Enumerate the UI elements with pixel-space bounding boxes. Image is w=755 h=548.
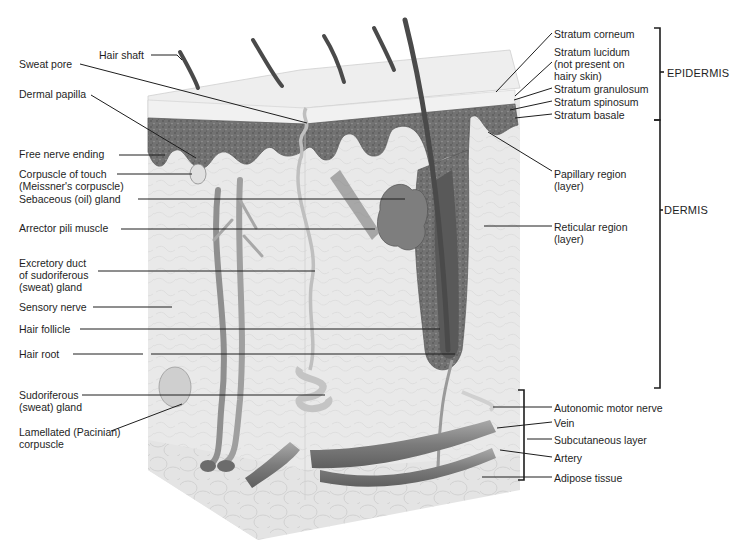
label-sudoriferous-gland: Sudoriferous(sweat) gland (19, 389, 82, 413)
label-lamellated-corpuscle: Lamellated (Pacinian)corpuscle (19, 426, 121, 450)
label-subcutaneous-layer: Subcutaneous layer (554, 434, 647, 446)
label-excretory-duct: Excretory ductof sudoriferous(sweat) gla… (19, 257, 88, 293)
pacinian-corpuscle-illustration (159, 367, 191, 407)
label-stratum-granulosum: Stratum granulosum (554, 83, 649, 95)
label-hair-root: Hair root (19, 348, 59, 360)
sebaceous-gland-illustration (377, 184, 427, 250)
label-artery: Artery (554, 452, 582, 464)
label-sweat-pore: Sweat pore (19, 58, 72, 70)
label-vein: Vein (554, 417, 574, 429)
skin-diagram: Hair shaft Sweat pore Dermal papilla Fre… (0, 0, 755, 548)
label-stratum-corneum: Stratum corneum (554, 28, 635, 40)
label-autonomic-motor-nerve: Autonomic motor nerve (554, 402, 663, 414)
label-corpuscle-of-touch: Corpuscle of touch(Meissner's corpuscle) (19, 168, 124, 192)
label-free-nerve-ending: Free nerve ending (19, 148, 104, 160)
region-label-epidermis: EPIDERMIS (667, 67, 729, 79)
meissner-corpuscle-illustration (190, 164, 206, 184)
label-reticular-region: Reticular region(layer) (554, 221, 628, 245)
label-adipose-tissue: Adipose tissue (554, 472, 622, 484)
label-stratum-basale: Stratum basale (554, 109, 625, 121)
label-stratum-lucidum: Stratum lucidum(not present onhairy skin… (554, 46, 630, 82)
label-stratum-spinosum: Stratum spinosum (554, 96, 639, 108)
label-arrector-pili: Arrector pili muscle (19, 222, 108, 234)
label-sebaceous-gland: Sebaceous (oil) gland (19, 193, 121, 205)
label-dermal-papilla: Dermal papilla (19, 88, 86, 100)
label-sensory-nerve: Sensory nerve (19, 301, 87, 313)
label-papillary-region: Papillary region(layer) (554, 168, 626, 192)
region-label-dermis: DERMIS (664, 204, 708, 216)
label-hair-shaft: Hair shaft (99, 49, 144, 61)
label-hair-follicle: Hair follicle (19, 323, 70, 335)
